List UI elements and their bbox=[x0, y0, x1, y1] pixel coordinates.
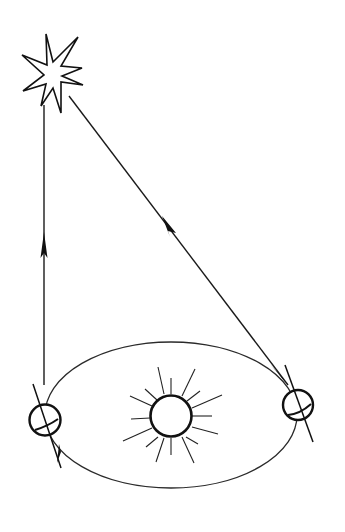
sightline-left bbox=[41, 105, 48, 385]
sun-icon bbox=[123, 367, 222, 463]
parallax-diagram: stellar-parallax bbox=[0, 0, 345, 532]
earth-icon bbox=[30, 384, 62, 468]
arrow-icon bbox=[271, 365, 286, 383]
star-icon bbox=[22, 34, 83, 113]
